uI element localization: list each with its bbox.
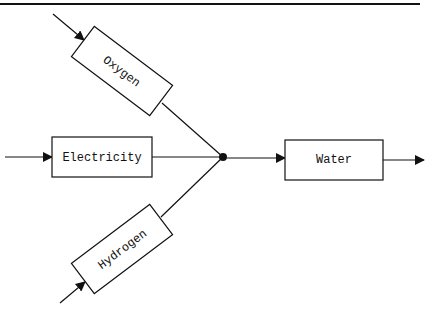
oxygen-input-arrow [53, 14, 84, 40]
hydrogen-node: Hydrogen [60, 157, 223, 303]
junction-dot [219, 153, 227, 161]
electricity-node: Electricity [5, 137, 223, 177]
hydrogen-input-arrow [60, 282, 85, 303]
hydrogen-to-junction-line [161, 157, 223, 217]
electricity-label: Electricity [62, 151, 141, 165]
water-node: Water [227, 140, 424, 180]
oxygen-to-junction-line [162, 103, 223, 157]
water-label: Water [316, 153, 352, 167]
flow-diagram: Oxygen Electricity Hydrogen Water [0, 0, 428, 313]
oxygen-node: Oxygen [53, 14, 223, 157]
